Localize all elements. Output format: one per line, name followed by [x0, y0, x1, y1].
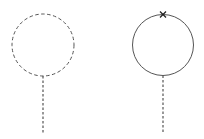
dashed-circle: [12, 14, 74, 76]
solid-circle: [133, 15, 194, 76]
diagram-canvas: [0, 0, 204, 139]
figure-right: [133, 12, 194, 134]
figure-left: [12, 14, 74, 133]
